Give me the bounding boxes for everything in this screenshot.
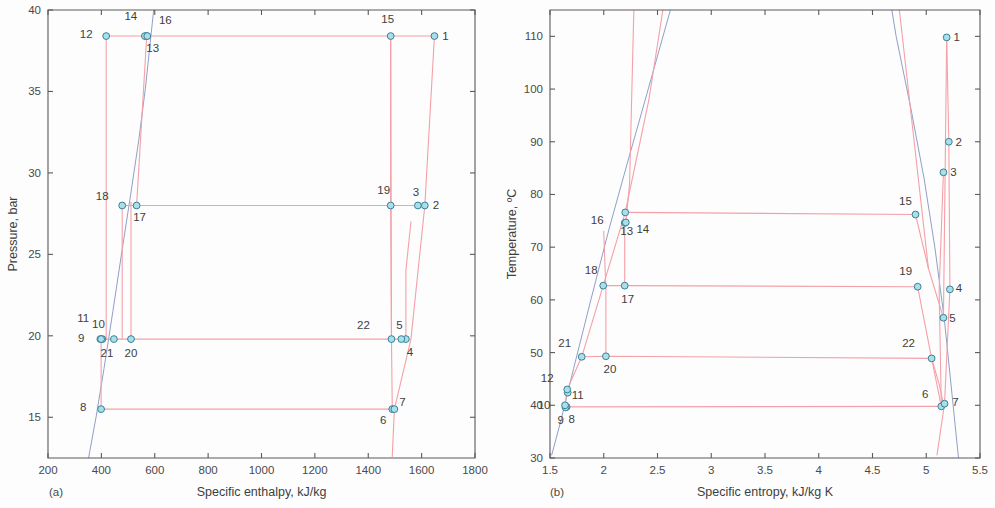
state-point-label: 8 <box>568 413 574 425</box>
data-points: 12345678910111213141516171819202122 <box>77 10 449 426</box>
state-point-label: 5 <box>396 319 402 331</box>
state-point-marker <box>103 33 110 40</box>
state-point-marker <box>912 211 919 218</box>
y-tick-label: 30 <box>28 167 41 179</box>
cycle-process-line <box>916 37 947 317</box>
x-tick-label: 400 <box>92 464 111 476</box>
state-point-label: 13 <box>620 225 633 237</box>
state-point-label: 15 <box>381 13 394 25</box>
state-point-marker <box>391 406 398 413</box>
state-point-label: 17 <box>133 211 146 223</box>
cycle-process-line <box>603 286 917 287</box>
y-tick-label: 100 <box>524 83 543 95</box>
x-tick-label: 4.5 <box>865 464 881 476</box>
x-tick-label: 1.5 <box>542 464 558 476</box>
state-point-label: 11 <box>77 312 89 324</box>
x-tick-label: 1400 <box>355 464 381 476</box>
plot-area <box>552 10 959 458</box>
cycle-process-line <box>582 356 932 358</box>
state-point-marker <box>431 33 438 40</box>
state-point-label: 3 <box>413 186 419 198</box>
state-point-label: 4 <box>407 346 414 358</box>
x-axis-title: Specific entropy, kJ/kg K <box>697 485 834 499</box>
cycle-process-line <box>392 36 434 456</box>
state-point-label: 17 <box>621 293 634 305</box>
state-point-marker <box>603 353 610 360</box>
data-point: 12 <box>541 372 571 392</box>
plot-area <box>89 10 435 458</box>
state-point-marker <box>622 209 629 216</box>
y-tick-label: 60 <box>530 294 543 306</box>
state-point-marker <box>600 282 607 289</box>
state-point-label: 10 <box>538 399 551 411</box>
state-point-label: 2 <box>433 199 439 211</box>
cycle-process-line <box>406 222 411 339</box>
state-point-label: 22 <box>357 319 370 331</box>
state-point-marker <box>119 202 126 209</box>
cycle-process-line <box>567 406 942 407</box>
x-axis-title: Specific enthalpy, kJ/kg <box>197 485 327 499</box>
data-point: 12 <box>80 28 110 40</box>
data-point: 4 <box>947 282 963 294</box>
y-tick-label: 70 <box>530 241 543 253</box>
state-point-label: 8 <box>80 401 86 413</box>
cycle-process-line <box>932 358 944 404</box>
axis-box <box>550 10 980 458</box>
state-point-label: 11 <box>572 389 584 401</box>
state-point-marker <box>564 386 571 393</box>
chart-panel-b: 1.522.533.544.555.5304050607080901001101… <box>497 0 995 508</box>
state-point-label: 16 <box>159 14 172 26</box>
x-tick-label: 1600 <box>409 464 435 476</box>
state-point-marker <box>940 314 947 321</box>
state-point-marker <box>578 353 585 360</box>
axis-box <box>48 10 475 458</box>
y-tick-label: 30 <box>530 452 543 464</box>
state-point-label: 12 <box>541 372 554 384</box>
state-point-marker <box>945 138 952 145</box>
data-point: 18 <box>96 190 126 208</box>
state-point-marker <box>914 283 921 290</box>
state-point-marker <box>562 402 569 409</box>
y-axis-title: Pressure, bar <box>6 196 20 271</box>
data-point: 1 <box>943 31 960 43</box>
state-point-label: 19 <box>899 265 912 277</box>
state-point-marker <box>388 336 395 343</box>
state-point-label: 21 <box>558 337 571 349</box>
y-tick-label: 50 <box>530 347 543 359</box>
state-point-label: 9 <box>78 332 84 344</box>
state-point-marker <box>622 219 629 226</box>
state-point-label: 21 <box>101 347 114 359</box>
y-tick-label: 25 <box>28 248 41 260</box>
state-point-marker <box>928 355 935 362</box>
temperature-entropy-chart: 1.522.533.544.555.5304050607080901001101… <box>497 0 995 508</box>
x-tick-label: 4 <box>816 464 823 476</box>
x-tick-label: 800 <box>199 464 218 476</box>
y-tick-label: 110 <box>525 30 543 42</box>
x-tick-label: 5 <box>923 464 929 476</box>
data-point: 15 <box>381 13 394 39</box>
state-point-label: 4 <box>956 282 963 294</box>
state-point-label: 3 <box>950 166 956 178</box>
state-point-label: 14 <box>124 10 137 22</box>
state-point-label: 10 <box>92 318 105 330</box>
state-point-label: 6 <box>922 388 928 400</box>
data-point: 2 <box>945 136 962 148</box>
state-point-label: 18 <box>585 264 598 276</box>
data-points: 12345678910111213141516171819202122 <box>538 31 963 426</box>
cycle-process-line <box>625 212 915 214</box>
y-tick-label: 15 <box>28 411 41 423</box>
axes-frame: 2004006008001000120014001600180015202530… <box>28 4 488 476</box>
state-point-label: 20 <box>125 347 138 359</box>
y-tick-label: 80 <box>530 188 543 200</box>
state-point-label: 1 <box>953 31 959 43</box>
state-point-marker <box>133 202 140 209</box>
state-point-label: 6 <box>380 414 386 426</box>
x-tick-label: 2 <box>601 464 607 476</box>
state-point-label: 12 <box>80 28 93 40</box>
state-point-marker <box>111 336 118 343</box>
state-point-label: 2 <box>956 136 962 148</box>
state-point-label: 14 <box>636 223 649 235</box>
panel-caption: (b) <box>550 486 564 498</box>
x-tick-label: 1000 <box>249 464 275 476</box>
state-point-marker <box>98 336 105 343</box>
